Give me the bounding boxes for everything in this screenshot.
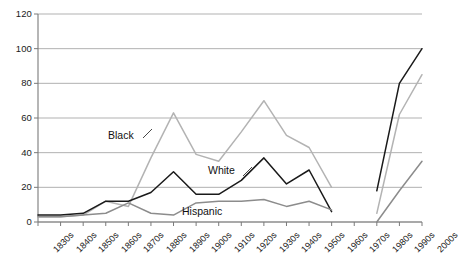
- series-line-hispanic: [377, 161, 422, 222]
- series-label-hispanic: Hispanic: [182, 205, 222, 217]
- y-tick-label: 120: [2, 8, 32, 19]
- series-label-black: Black: [108, 129, 134, 141]
- y-tick-label: 100: [2, 43, 32, 54]
- y-tick-label: 0: [2, 216, 32, 227]
- series-label-white: White: [208, 164, 235, 176]
- y-tick-label: 40: [2, 147, 32, 158]
- leader-line-black: [143, 129, 152, 138]
- y-tick-label: 60: [2, 112, 32, 123]
- series-line-black: [377, 75, 422, 214]
- y-tick-label: 80: [2, 77, 32, 88]
- y-tick-label: 20: [2, 181, 32, 192]
